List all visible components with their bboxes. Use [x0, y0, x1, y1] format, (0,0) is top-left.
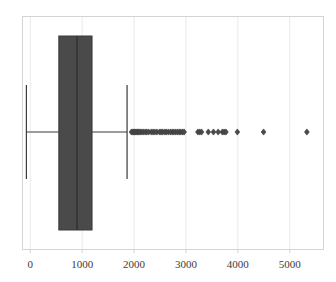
tick-marks-group — [30, 250, 289, 254]
outlier-point — [211, 129, 216, 135]
box-group — [26, 36, 127, 230]
x-tick-label-0: 0 — [28, 258, 34, 270]
x-tick-label-4000: 4000 — [227, 258, 249, 270]
x-tick-label-2000: 2000 — [123, 258, 145, 270]
x-tick-label-3000: 3000 — [175, 258, 197, 270]
boxplot-figure: 010002000300040005000 — [0, 0, 336, 282]
outlier-point — [304, 129, 309, 135]
outlier-point — [235, 129, 240, 135]
outlier-points-group — [129, 129, 309, 135]
plot-canvas — [0, 0, 336, 282]
iqr-box — [59, 36, 92, 230]
x-tick-label-5000: 5000 — [279, 258, 301, 270]
outlier-point — [206, 129, 211, 135]
outlier-point — [261, 129, 266, 135]
x-tick-label-1000: 1000 — [71, 258, 93, 270]
